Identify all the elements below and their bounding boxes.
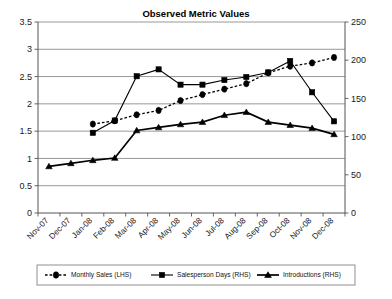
chart-legend: Monthly Sales (LHS)Salesperson Days (RHS… <box>37 265 355 285</box>
marker-diamond <box>134 112 139 118</box>
plot-area <box>38 22 345 213</box>
marker-square <box>331 119 336 124</box>
marker-square <box>90 130 95 135</box>
marker-square <box>178 82 183 87</box>
chart-page: Observed Metric Values 00.511.522.533.5 … <box>0 0 392 299</box>
left-tick-label: 3 <box>27 44 32 54</box>
marker-square <box>156 67 161 72</box>
legend-label: Introductions (RHS) <box>283 271 341 279</box>
legend-label: Monthly Sales (LHS) <box>71 271 131 279</box>
right-tick-label: 0 <box>351 208 356 218</box>
marker-square <box>244 74 249 79</box>
marker-diamond <box>156 107 161 113</box>
marker-diamond <box>331 54 336 60</box>
marker-square <box>200 82 205 87</box>
right-tick-label: 100 <box>351 132 366 142</box>
left-tick-label: 2 <box>27 99 32 109</box>
marker-square <box>134 74 139 79</box>
left-tick-label: 0.5 <box>19 181 32 191</box>
marker-diamond <box>90 121 95 127</box>
left-tick-label: 2.5 <box>19 72 32 82</box>
right-tick-label: 250 <box>351 17 366 27</box>
marker-square <box>112 118 117 123</box>
marker-diamond <box>53 272 58 279</box>
marker-square <box>266 70 271 75</box>
left-tick-label: 3.5 <box>19 17 32 27</box>
marker-diamond <box>244 81 249 87</box>
observed-metric-values-chart: Observed Metric Values 00.511.522.533.5 … <box>0 0 392 299</box>
marker-diamond <box>200 91 205 97</box>
right-tick-label: 50 <box>351 170 361 180</box>
right-tick-label: 200 <box>351 55 366 65</box>
legend-label: Salesperson Days (RHS) <box>177 271 251 279</box>
chart-title: Observed Metric Values <box>142 8 249 19</box>
marker-square <box>159 272 164 277</box>
left-tick-label: 0 <box>27 208 32 218</box>
left-tick-label: 1 <box>27 154 32 164</box>
marker-square <box>310 90 315 95</box>
marker-square <box>222 77 227 82</box>
right-tick-label: 150 <box>351 94 366 104</box>
marker-diamond <box>309 60 314 66</box>
left-tick-label: 1.5 <box>19 126 32 136</box>
marker-diamond <box>222 86 227 92</box>
marker-diamond <box>178 97 183 103</box>
marker-square <box>288 58 293 63</box>
